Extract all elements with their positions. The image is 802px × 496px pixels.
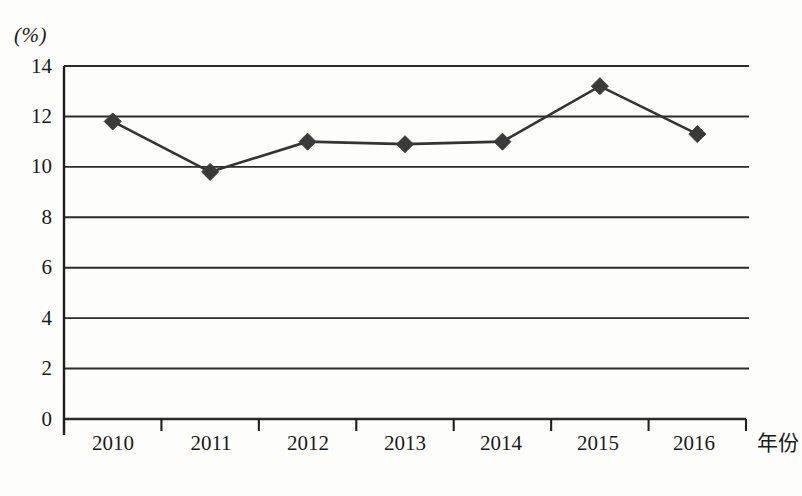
plot-area xyxy=(0,0,802,496)
gridlines-group xyxy=(64,66,749,419)
data-point-marker-2014 xyxy=(494,133,511,150)
data-series-line xyxy=(113,86,698,172)
data-point-marker-2012 xyxy=(299,133,316,150)
data-point-marker-2016 xyxy=(689,126,706,143)
data-point-marker-2013 xyxy=(397,136,414,153)
data-point-marker-2015 xyxy=(591,78,608,95)
line-chart: (%) 0 2 4 6 8 10 12 14 2010 2011 2012 20… xyxy=(0,0,802,496)
x-axis-ticks-group xyxy=(64,419,746,431)
